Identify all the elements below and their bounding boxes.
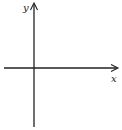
- x-axis-label: x: [111, 74, 117, 84]
- axes-graphic: [0, 0, 122, 130]
- y-axis-label: y: [23, 3, 29, 13]
- coordinate-axes-diagram: y x: [0, 0, 122, 130]
